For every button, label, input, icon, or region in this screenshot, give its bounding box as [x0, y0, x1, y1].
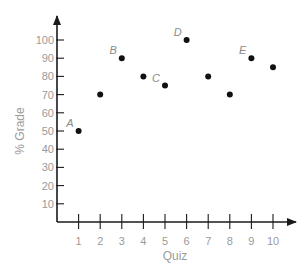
x-tick-label: 5: [162, 235, 168, 247]
y-tick-label: 100: [36, 34, 54, 46]
point-label: E: [239, 44, 247, 56]
y-axis-title: % Grade: [13, 107, 27, 155]
data-point: [248, 55, 254, 61]
data-point: [162, 83, 168, 89]
x-tick-label: 10: [267, 235, 279, 247]
data-point: [270, 64, 276, 70]
x-tick-label: 2: [97, 235, 103, 247]
data-point: [184, 37, 190, 43]
y-tick-label: 30: [42, 161, 54, 173]
y-tick-label: 70: [42, 89, 54, 101]
y-tick-label: 10: [42, 198, 54, 210]
y-tick-label: 50: [42, 125, 54, 137]
data-point: [205, 73, 211, 79]
point-label: A: [65, 117, 73, 129]
x-tick-label: 9: [248, 235, 254, 247]
point-label: C: [152, 72, 160, 84]
point-label: B: [109, 44, 116, 56]
data-point: [97, 92, 103, 98]
data-point: [76, 128, 82, 134]
x-axis-ticks: 12345678910: [76, 214, 280, 247]
y-tick-label: 90: [42, 52, 54, 64]
x-tick-label: 7: [205, 235, 211, 247]
y-tick-label: 20: [42, 180, 54, 192]
y-tick-label: 80: [42, 70, 54, 82]
data-point: [140, 73, 146, 79]
y-axis-ticks: 102030405060708090100: [36, 34, 64, 210]
x-axis-title: Quiz: [163, 249, 188, 263]
scatter-chart: 102030405060708090100 12345678910 ABCDE …: [0, 0, 307, 276]
x-tick-label: 4: [140, 235, 146, 247]
x-tick-label: 6: [184, 235, 190, 247]
x-tick-label: 1: [76, 235, 82, 247]
y-tick-label: 60: [42, 107, 54, 119]
data-points: ABCDE: [65, 26, 276, 134]
x-tick-label: 3: [119, 235, 125, 247]
point-label: D: [174, 26, 182, 38]
data-point: [119, 55, 125, 61]
x-tick-label: 8: [227, 235, 233, 247]
y-tick-label: 40: [42, 143, 54, 155]
data-point: [227, 92, 233, 98]
